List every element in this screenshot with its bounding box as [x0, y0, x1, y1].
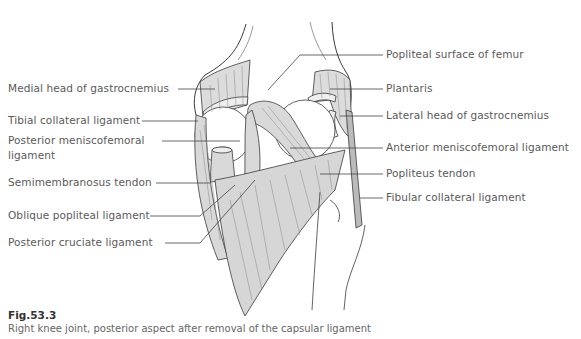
label-popliteal-surface-femur: Popliteal surface of femur: [386, 48, 524, 60]
label-posterior-cruciate-ligament: Posterior cruciate ligament: [8, 236, 153, 248]
figure-number: Fig.53.3: [8, 309, 56, 321]
label-anterior-meniscofemoral-ligament: Anterior meniscofemoral ligament: [386, 141, 569, 153]
label-medial-head-gastrocnemius: Medial head of gastrocnemius: [8, 82, 169, 94]
label-semimembranosus-tendon: Semimembranosus tendon: [8, 176, 152, 188]
label-plantaris: Plantaris: [386, 82, 433, 94]
label-posterior-meniscofemoral-ligament: Posterior meniscofemoral: [8, 134, 145, 146]
label-oblique-popliteal-ligament: Oblique popliteal ligament: [8, 209, 150, 221]
label-lateral-head-gastrocnemius: Lateral head of gastrocnemius: [386, 109, 549, 121]
label-fibular-collateral-ligament: Fibular collateral ligament: [386, 191, 526, 203]
label-popliteus-tendon: Popliteus tendon: [386, 167, 476, 179]
figure-caption: Right knee joint, posterior aspect after…: [8, 323, 371, 334]
fibular-collateral-shape: [346, 110, 362, 228]
label-tibial-collateral-ligament: Tibial collateral ligament: [8, 114, 140, 126]
label-posterior-meniscofemoral-ligament-cont: ligament: [8, 149, 55, 161]
